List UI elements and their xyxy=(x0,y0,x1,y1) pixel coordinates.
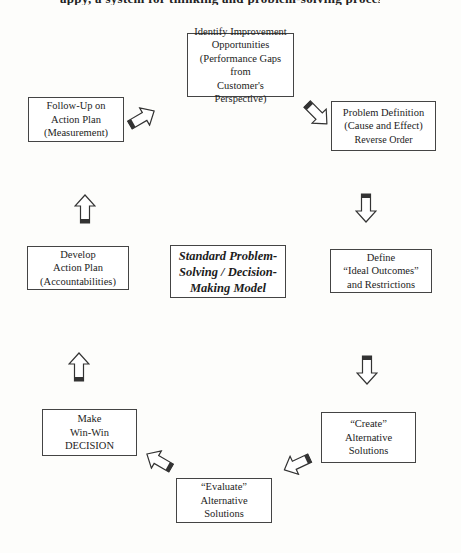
step-line: and Restrictions xyxy=(343,278,419,292)
step-line: (Cause and Effect) xyxy=(343,119,424,133)
step-line: (Measurement) xyxy=(44,126,108,140)
model-title-box: Standard Problem- Solving / Decision- Ma… xyxy=(170,245,286,298)
step-evaluate-alternatives: “Evaluate” Alternative Solutions xyxy=(176,478,272,523)
step-line: “Create” xyxy=(326,417,411,431)
step-line: Opportunities xyxy=(192,38,289,52)
title-line: Standard Problem- xyxy=(179,248,277,264)
step-line: Make xyxy=(65,412,114,426)
step-line: (Performance Gaps from xyxy=(192,52,289,79)
step-follow-up: Follow-Up on Action Plan (Measurement) xyxy=(28,97,124,142)
arrow-up-icon xyxy=(68,352,90,382)
title-line: Solving / Decision- xyxy=(179,264,277,280)
step-line: (Accountabilities) xyxy=(40,275,116,289)
arrow-up-right-icon xyxy=(124,101,161,135)
step-problem-definition: Problem Definition (Cause and Effect) Re… xyxy=(331,101,436,151)
cropped-heading-text: appy, a system for thinking and problem-… xyxy=(60,0,380,5)
step-line: Action Plan xyxy=(44,113,108,127)
step-line: Define xyxy=(343,251,419,265)
step-line: Identify Improvement xyxy=(192,25,289,39)
step-line: “Evaluate” xyxy=(200,480,247,494)
step-develop-action-plan: Develop Action Plan (Accountabilities) xyxy=(27,246,129,290)
arrow-down-icon xyxy=(355,193,377,223)
arrow-up-icon xyxy=(74,194,96,224)
arrow-down-left-icon xyxy=(279,448,315,481)
step-line: “Ideal Outcomes” xyxy=(343,264,419,278)
step-make-decision: Make Win-Win DECISION xyxy=(42,409,137,456)
step-line: Develop xyxy=(40,248,116,262)
step-line: Alternative xyxy=(200,494,247,508)
step-line: DECISION xyxy=(65,439,114,453)
step-create-alternatives: “Create” Alternative Solutions xyxy=(321,412,416,463)
arrow-down-icon xyxy=(356,355,378,385)
step-line: Solutions xyxy=(200,507,247,521)
step-line: Follow-Up on xyxy=(44,99,108,113)
step-identify-improvement: Identify Improvement Opportunities (Perf… xyxy=(187,33,294,97)
step-line: Reverse Order xyxy=(343,133,424,147)
arrow-up-left-icon xyxy=(141,444,178,478)
step-line: Alternative Solutions xyxy=(326,431,411,458)
arrow-down-right-icon xyxy=(299,96,336,133)
step-line: Customer's Perspective) xyxy=(192,79,289,106)
step-line: Win-Win xyxy=(65,426,114,440)
title-line: Making Model xyxy=(179,280,277,296)
step-define-ideal-outcomes: Define “Ideal Outcomes” and Restrictions xyxy=(330,249,432,293)
step-line: Problem Definition xyxy=(343,106,424,120)
step-line: Action Plan xyxy=(40,261,116,275)
